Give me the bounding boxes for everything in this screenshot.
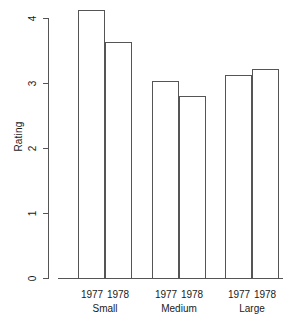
y-tick-label-1: 1 <box>27 206 38 222</box>
y-tick-mark-3 <box>43 83 48 84</box>
bar-small-1977 <box>78 10 105 279</box>
y-tick-mark-2 <box>43 148 48 149</box>
y-tick-mark-1 <box>43 213 48 214</box>
y-tick-mark-0 <box>43 278 48 279</box>
year-label-medium-1977: 1977 <box>153 289 179 300</box>
group-name-small: Small <box>78 303 132 314</box>
year-label-medium-1978: 1978 <box>179 289 205 300</box>
bar-chart: Rating 4 3 2 1 0 19771978 Small 19771978… <box>0 0 291 326</box>
y-tick-label-2: 2 <box>27 141 38 157</box>
y-tick-label-3: 3 <box>27 76 38 92</box>
group-years-medium: 19771978 <box>152 289 206 300</box>
group-name-medium: Medium <box>152 303 206 314</box>
year-label-small-1977: 1977 <box>79 289 105 300</box>
y-axis-title: Rating <box>13 119 24 155</box>
bar-large-1977 <box>225 75 252 279</box>
year-label-large-1977: 1977 <box>226 289 252 300</box>
y-axis-line <box>48 18 49 279</box>
group-name-large: Large <box>225 303 279 314</box>
bar-medium-1978 <box>179 96 206 279</box>
group-years-large: 19771978 <box>225 289 279 300</box>
year-label-small-1978: 1978 <box>105 289 131 300</box>
bar-small-1978 <box>105 42 132 279</box>
group-years-small: 19771978 <box>78 289 132 300</box>
bar-large-1978 <box>252 69 279 279</box>
y-tick-label-4: 4 <box>27 11 38 27</box>
year-label-large-1978: 1978 <box>252 289 278 300</box>
y-tick-mark-4 <box>43 18 48 19</box>
bar-medium-1977 <box>152 81 179 279</box>
y-tick-label-0: 0 <box>27 271 38 287</box>
